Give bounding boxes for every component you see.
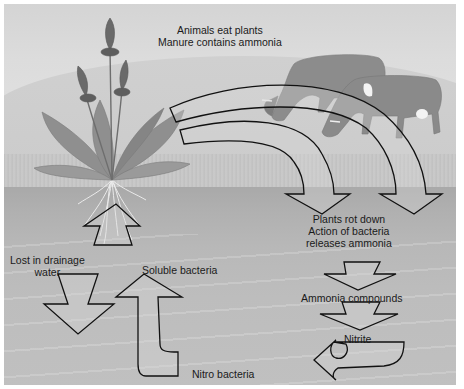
animals-label: Animals eat plants Manure contains ammon… — [158, 24, 282, 48]
ammonia-compounds-label: Ammonia compounds — [301, 292, 403, 304]
ammonia-to-nitrite-arrow — [320, 302, 398, 330]
lost-drainage-label-line2: water — [10, 266, 85, 278]
drainage-loss-arrow — [44, 274, 114, 334]
nitrogen-cycle-diagram: Animals eat plants Manure contains ammon… — [4, 4, 456, 385]
lost-drainage-label: Lost in drainage water — [10, 254, 85, 278]
decay-label: Plants rot down Action of bacteria relea… — [306, 213, 392, 249]
nitro-to-soluble-arrow — [116, 274, 182, 376]
nitrite-label: Nitrite — [344, 333, 371, 345]
soluble-bacteria-label: Soluble bacteria — [142, 264, 217, 276]
arrows-layer — [4, 4, 456, 385]
lost-drainage-label-line1: Lost in drainage — [10, 254, 85, 266]
animals-label-line1: Animals eat plants — [158, 24, 282, 36]
nitrite-to-nitro-bacteria-arrow — [314, 340, 404, 380]
animals-label-line2: Manure contains ammonia — [158, 36, 282, 48]
soil-to-roots-arrow — [84, 204, 140, 245]
decay-label-line3: releases ammonia — [306, 237, 392, 249]
decay-label-line2: Action of bacteria — [306, 225, 392, 237]
plant-to-decay-curved-arrow-inner — [180, 121, 350, 214]
decay-label-line1: Plants rot down — [306, 213, 392, 225]
nitro-bacteria-label: Nitro bacteria — [192, 368, 254, 380]
decay-to-ammonia-arrow — [324, 262, 396, 290]
